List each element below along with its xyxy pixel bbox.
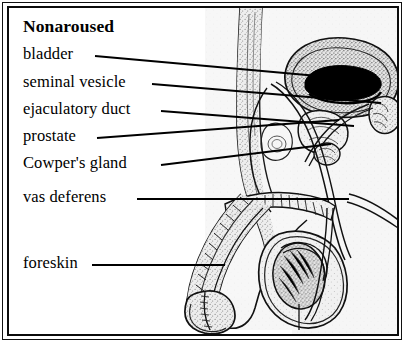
label-prostate: prostate [23,128,76,145]
label-vas-deferens: vas deferens [23,189,106,206]
anatomy-figure: Nonaroused bladder seminal vesicle ejacu… [0,0,406,343]
label-layer: Nonaroused bladder seminal vesicle ejacu… [9,8,397,334]
figure-inner-border: Nonaroused bladder seminal vesicle ejacu… [7,6,399,336]
figure-title: Nonaroused [23,18,114,36]
label-seminal-vesicle: seminal vesicle [23,74,126,91]
label-cowpers-gland: Cowper's gland [23,155,127,172]
label-bladder: bladder [23,46,73,63]
label-foreskin: foreskin [23,255,78,272]
label-ejaculatory-duct: ejaculatory duct [23,101,130,118]
